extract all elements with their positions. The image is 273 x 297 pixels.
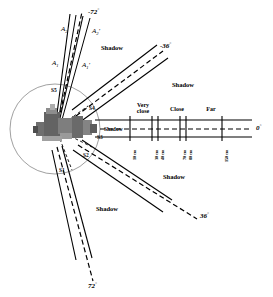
sensor-label-s2: S2 xyxy=(83,153,89,159)
sensor-label-s3: S3 xyxy=(97,135,103,141)
axis-tick-label-1: 30 cm xyxy=(154,150,159,160)
beam-label-a2: A2 xyxy=(61,26,68,35)
diagram-vector-layer xyxy=(0,0,273,297)
diagram-canvas: -72° -36° 0° 36° 72° Shadow Shadow Shado… xyxy=(0,0,273,297)
axis-tick-label-0: 10 cm xyxy=(132,150,137,160)
sensor-label-s5: S5 xyxy=(51,88,57,94)
shadow-label-axis: Shadow xyxy=(104,127,123,133)
beam-label-a1-prime: A1' xyxy=(82,62,90,71)
angle-label-zero: 0° xyxy=(256,124,261,132)
axis-tick-label-3: 70 cm xyxy=(182,150,187,160)
angle-label-plus72: 72° xyxy=(88,282,97,290)
axis-tick-label-5: 150 cm xyxy=(224,150,229,162)
axis-tick-label-4: 80 cm xyxy=(188,150,193,160)
shadow-label-lower-right: Shadow xyxy=(163,174,185,181)
beam-label-a1: A1 xyxy=(52,60,59,69)
beam-label-a2-prime: A2' xyxy=(92,28,100,37)
sensor-label-s4: S4 xyxy=(89,106,95,112)
shadow-label-lower-left: Shadow xyxy=(96,206,118,213)
axis-tick-label-2: 40 cm xyxy=(160,150,165,160)
angle-label-minus72: -72° xyxy=(88,8,99,16)
sensor-label-s1: S1 xyxy=(59,168,65,174)
angle-label-plus36: 36° xyxy=(200,212,209,220)
shadow-label-upper-right: Shadow xyxy=(172,82,194,89)
angle-label-minus36: -36° xyxy=(160,42,171,50)
shadow-label-upper-left: Shadow xyxy=(101,45,123,52)
zone-label-close: Close xyxy=(164,106,190,112)
zone-label-very-close: Veryclose xyxy=(130,102,156,114)
zone-label-far: Far xyxy=(200,106,222,112)
